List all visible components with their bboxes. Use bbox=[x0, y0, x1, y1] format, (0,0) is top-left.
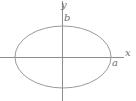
ellipse-figure: y b a x bbox=[0, 0, 136, 101]
y-axis-label: y bbox=[61, 0, 67, 10]
semi-major-axis-label: a bbox=[112, 58, 118, 68]
x-axis-label: x bbox=[125, 48, 131, 58]
semi-minor-axis-label: b bbox=[64, 13, 70, 23]
